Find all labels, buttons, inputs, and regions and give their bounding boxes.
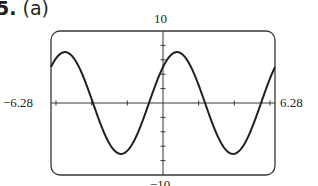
graph-window xyxy=(0,0,318,186)
axes xyxy=(51,31,275,175)
